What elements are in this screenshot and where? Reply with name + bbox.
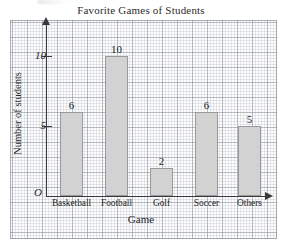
chart-page: Favorite Games of Students 10 5 O Number…	[0, 0, 282, 245]
graph-paper-background	[10, 20, 277, 239]
page-title: Favorite Games of Students	[0, 4, 282, 16]
